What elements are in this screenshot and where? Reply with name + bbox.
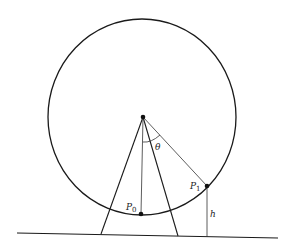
theta-label: θ xyxy=(155,142,161,152)
support-leg-left xyxy=(101,117,143,234)
ferris-wheel-diagram: θ P0 P1 h xyxy=(0,0,294,252)
point-p1 xyxy=(205,184,210,189)
support-leg-right xyxy=(143,117,178,236)
center-point xyxy=(141,115,146,120)
radius-to-p0 xyxy=(141,117,143,214)
point-p0 xyxy=(139,212,144,217)
p0-label: P0 xyxy=(125,202,137,214)
ground-line xyxy=(17,233,278,238)
p1-label: P1 xyxy=(189,181,201,193)
h-label: h xyxy=(210,209,216,219)
